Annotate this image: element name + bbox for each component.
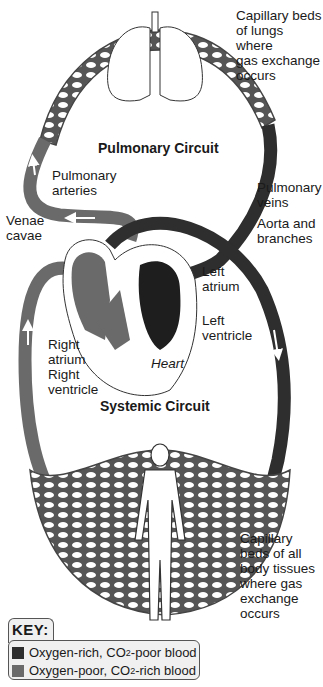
heart-label: Heart [151, 356, 184, 371]
lungs-icon [108, 12, 203, 101]
key-text: Oxygen-poor, CO [29, 663, 130, 678]
key-text: Oxygen-rich, CO [29, 645, 126, 660]
systemic-circuit-title: Systemic Circuit [100, 398, 210, 414]
key-text: -rich blood [135, 663, 196, 678]
pulmonary-arteries-label: Pulmonary arteries [52, 168, 117, 198]
oxygen-poor-swatch [12, 665, 24, 677]
key-title: KEY: [12, 621, 49, 638]
aorta-label: Aorta and branches [257, 216, 316, 246]
pulmonary-veins-label: Pulmonary veins [257, 180, 322, 210]
body-capillaries-label: Capillary beds of all body tissues where… [240, 531, 315, 621]
key-text: -poor blood [131, 645, 197, 660]
left-atrium-label: Left atrium [202, 264, 240, 294]
key-item-oxygen-rich: Oxygen-rich, CO2-poor blood [12, 645, 197, 660]
lung-capillaries-label: Capillary beds of lungs where gas exchan… [236, 8, 323, 83]
venae-cavae-label: Venae cavae [6, 213, 44, 243]
key-item-oxygen-poor: Oxygen-poor, CO2-rich blood [12, 663, 196, 678]
oxygen-rich-swatch [12, 647, 24, 659]
right-atrium-label: Right atrium [48, 337, 86, 367]
pulmonary-circuit-title: Pulmonary Circuit [98, 140, 219, 156]
left-ventricle-label: Left ventricle [202, 313, 252, 343]
right-ventricle-label: Right ventricle [48, 367, 98, 397]
